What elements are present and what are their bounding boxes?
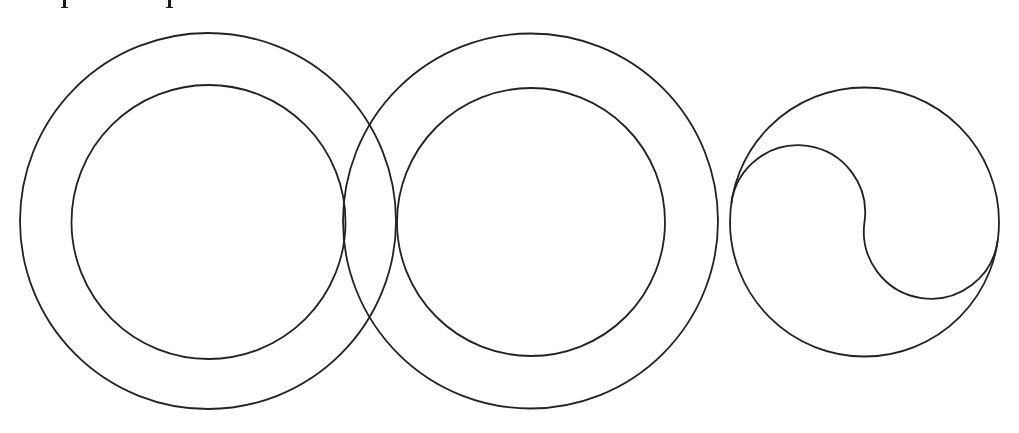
yin-yang-circle [730, 88, 999, 357]
left-outer-circle [20, 33, 396, 409]
left-ring-pair [20, 33, 396, 409]
middle-inner-circle [397, 88, 665, 356]
middle-outer-circle [343, 34, 718, 409]
yin-yang-s-curve [731, 145, 997, 298]
geometry-canvas [0, 0, 1019, 433]
left-inner-circle [72, 85, 346, 359]
middle-ring-pair [343, 34, 718, 409]
